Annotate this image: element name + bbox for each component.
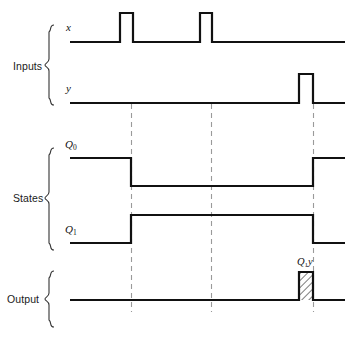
output-pulse-label-subscript: 1: [305, 261, 309, 269]
waveform-y-path: [70, 74, 345, 103]
signal-label-y: y: [66, 82, 71, 94]
time-marker-lines: [132, 104, 314, 312]
group-braces: [45, 25, 54, 327]
output-pulse-label-base: Q: [297, 256, 305, 267]
output-brace: [45, 271, 54, 327]
signal-label-q0-subscript: 0: [73, 143, 77, 152]
states-brace: [45, 148, 54, 250]
signal-label-x: x: [66, 21, 71, 33]
waveform-x-path: [70, 13, 345, 42]
waveform-q1-path: [70, 215, 345, 243]
waveform-y: [70, 74, 345, 103]
signal-label-q0-base: Q: [65, 138, 73, 150]
inputs-brace: [45, 25, 54, 105]
group-label-output: Output: [7, 293, 39, 305]
output-pulse-hatch: [299, 272, 313, 300]
waveform-q1: [70, 215, 345, 243]
group-label-inputs: Inputs: [13, 60, 42, 72]
waveform-q0: [70, 158, 345, 186]
timing-diagram-canvas: [0, 0, 354, 340]
signal-label-q1-base: Q: [65, 223, 73, 235]
output-pulse-label: Q1y: [297, 256, 313, 267]
output-pulse-label-tail: y: [308, 256, 313, 267]
waveform-output: [70, 272, 345, 300]
group-label-states: States: [13, 192, 43, 204]
signal-label-q1-subscript: 1: [73, 228, 77, 237]
waveform-q0-path: [70, 158, 345, 186]
waveform-x: [70, 13, 345, 42]
signal-label-q1: Q1: [65, 223, 77, 235]
timing-diagram-figure: Inputs States Output x y Q0 Q1 Q1y: [0, 0, 354, 340]
signal-label-q0: Q0: [65, 138, 77, 150]
